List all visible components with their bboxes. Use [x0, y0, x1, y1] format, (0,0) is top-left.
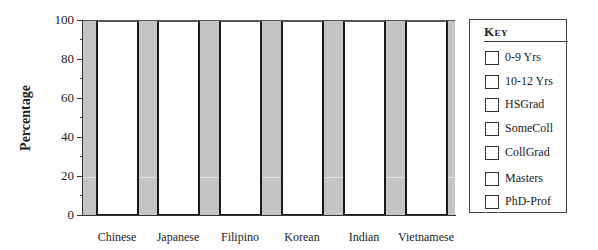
- legend-label: 10-12 Yrs: [505, 74, 553, 89]
- legend-swatch: [485, 51, 499, 65]
- legend-swatch: [485, 75, 499, 89]
- x-label-indian: Indian: [329, 230, 399, 245]
- y-tick-80: [77, 59, 83, 60]
- y-axis-title: Percentage: [18, 85, 34, 151]
- y-minor-tick: [80, 156, 83, 157]
- x-label-chinese: Chinese: [82, 230, 152, 245]
- y-minor-tick: [80, 195, 83, 196]
- y-tick-100: [77, 20, 83, 21]
- y-tick-60: [77, 98, 83, 99]
- bar-chinese: [96, 21, 139, 216]
- y-tick-40: [77, 137, 83, 138]
- bar-vietnamese: [405, 21, 448, 216]
- x-label-filipino: Filipino: [205, 230, 275, 245]
- legend-swatch: [485, 98, 499, 112]
- bar-japanese: [157, 21, 200, 216]
- y-tick-label: 60: [44, 91, 74, 104]
- legend: Key 0-9 Yrs 10-12 Yrs HSGrad SomeColl Co…: [469, 19, 567, 213]
- y-tick-20: [77, 176, 83, 177]
- legend-item-hsgrad: HSGrad: [485, 96, 544, 113]
- bar-indian: [343, 21, 386, 216]
- legend-item-collgrad: CollGrad: [485, 144, 550, 161]
- y-minor-tick: [80, 39, 83, 40]
- legend-item-masters: Masters: [485, 170, 543, 187]
- x-label-korean: Korean: [267, 230, 337, 245]
- legend-swatch: [485, 122, 499, 136]
- legend-label: CollGrad: [505, 145, 550, 160]
- y-minor-tick: [80, 117, 83, 118]
- y-minor-tick: [80, 78, 83, 79]
- legend-title-underline: [484, 41, 568, 42]
- bar-korean: [281, 21, 324, 216]
- legend-label: PhD-Prof: [505, 194, 551, 209]
- legend-item-10-12-yrs: 10-12 Yrs: [485, 73, 553, 90]
- bar-filipino: [219, 21, 262, 216]
- y-tick-label: 100: [44, 13, 74, 26]
- legend-label: HSGrad: [505, 97, 544, 112]
- legend-item-0-9-yrs: 0-9 Yrs: [485, 49, 541, 66]
- y-tick-label: 20: [44, 169, 74, 182]
- plot-area: [83, 20, 455, 216]
- legend-label: SomeColl: [505, 121, 553, 136]
- legend-swatch: [485, 195, 499, 209]
- legend-label: 0-9 Yrs: [505, 50, 541, 65]
- legend-item-somecoll: SomeColl: [485, 120, 553, 137]
- legend-swatch: [485, 172, 499, 186]
- legend-title: Key: [484, 24, 508, 40]
- y-tick-label: 80: [44, 52, 74, 65]
- y-tick-label: 0: [44, 208, 74, 221]
- legend-label: Masters: [505, 171, 543, 186]
- y-tick-label: 40: [44, 130, 74, 143]
- y-axis-line: [82, 20, 83, 216]
- legend-item-phd-prof: PhD-Prof: [485, 193, 551, 210]
- legend-swatch: [485, 146, 499, 160]
- y-tick-0: [77, 215, 83, 216]
- x-axis-line: [82, 215, 456, 216]
- x-label-vietnamese: Vietnamese: [391, 230, 461, 245]
- x-label-japanese: Japanese: [143, 230, 213, 245]
